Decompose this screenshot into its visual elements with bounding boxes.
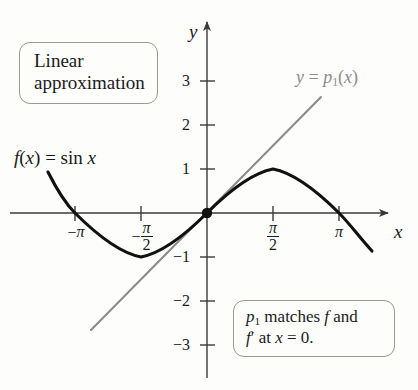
linear-approximation-figure: −π −π2 π2 π 3 2 1 −1 −2 −3 y x f(x) = si…	[0, 0, 418, 390]
callout-matches-verb: matches	[260, 307, 324, 326]
y-axis-label-text: y	[189, 21, 197, 42]
function-label-argument: x	[88, 147, 96, 168]
tangency-point	[202, 208, 212, 218]
x-axis-label: x	[394, 222, 402, 241]
function-label-equals: =	[40, 147, 60, 168]
callout-matches-and: and	[329, 307, 358, 326]
tangent-label-variable: x	[344, 67, 352, 87]
function-label-sin: sin	[61, 147, 83, 168]
callout-matches-line1: p1 matches f and	[246, 307, 394, 328]
y-tick-label-2: 2	[160, 117, 190, 133]
y-tick-label-3: 3	[160, 73, 190, 89]
x-tick-label-neg-pi: −π	[62, 224, 90, 241]
y-tick-label-neg-1: −1	[152, 249, 190, 265]
callout-linear-line2: approximation	[34, 72, 157, 94]
callout-linear-line1: Linear	[34, 50, 157, 72]
tangent-label-equals: =	[304, 67, 323, 87]
function-label-variable: x	[26, 147, 34, 168]
x-tick-label-pi: π	[328, 224, 350, 240]
callout-matches-x: x	[275, 328, 283, 347]
tangent-label-y: y	[296, 67, 304, 87]
callout-matches-line2: f′ at x = 0.	[246, 328, 394, 348]
x-tick-label-pi-over-2: π2	[260, 220, 286, 254]
callout-p1-matches: p1 matches f and f′ at x = 0.	[233, 300, 395, 357]
y-tick-label-1: 1	[160, 161, 190, 177]
x-axis-label-text: x	[394, 221, 402, 242]
function-label: f(x) = sin x	[14, 148, 96, 167]
callout-linear-approximation: Linear approximation	[19, 42, 158, 104]
y-axis-label: y	[189, 22, 197, 41]
callout-matches-p: p	[246, 307, 255, 326]
tangent-label-p: p	[323, 67, 332, 87]
callout-matches-at: at	[254, 328, 275, 347]
y-tick-label-neg-2: −2	[152, 293, 190, 309]
y-tick-label-neg-3: −3	[152, 337, 190, 353]
callout-matches-value: = 0.	[283, 328, 314, 347]
tangent-line-label: y = p1(x)	[296, 68, 358, 89]
tangent-label-paren-close: )	[352, 67, 358, 87]
